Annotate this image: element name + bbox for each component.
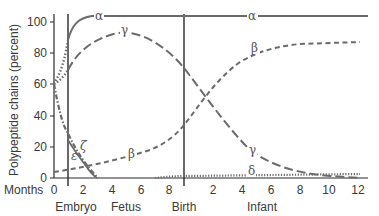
label-delta: δ <box>248 164 255 178</box>
period-labels: Embryo Fetus Birth Infant <box>55 200 277 214</box>
hemoglobin-chain-chart: Polypeptide chains (percent) 100 80 60 4… <box>0 0 379 216</box>
x-tick-label: 12 <box>351 183 365 197</box>
gamma-early-curve <box>54 70 68 84</box>
y-tick-label: 100 <box>27 15 47 29</box>
alpha-curve <box>68 16 368 40</box>
label-gamma-2: γ <box>249 143 256 157</box>
label-alpha-2: α <box>248 9 256 23</box>
y-axis-title: Polypeptide chains (percent) <box>7 24 21 176</box>
x-tick-label: 6 <box>268 183 275 197</box>
x-tick-label: 6 <box>138 183 145 197</box>
y-tick-label: 60 <box>34 77 48 91</box>
beta-curve <box>54 42 360 172</box>
label-beta-1: β <box>251 41 258 55</box>
x-tick-label: 2 <box>80 183 87 197</box>
label-beta-2: β <box>128 147 135 161</box>
y-tick-label: 40 <box>34 109 48 123</box>
label-gamma-1: γ <box>121 23 128 37</box>
y-axis: 100 80 60 40 20 0 <box>27 14 54 185</box>
alpha-early-curve <box>54 40 68 84</box>
x-tick-label: 4 <box>239 183 246 197</box>
x-tick-label: 8 <box>297 183 304 197</box>
label-epsilon: ε <box>71 149 77 163</box>
period-label-birth: Birth <box>172 200 197 214</box>
x-tick-label: 4 <box>109 183 116 197</box>
period-label-fetus: Fetus <box>111 200 141 214</box>
x-tick-label: 8 <box>166 183 173 197</box>
period-label-embryo: Embryo <box>55 200 97 214</box>
period-label-infant: Infant <box>247 200 278 214</box>
x-tick-label: 0 <box>51 183 58 197</box>
y-tick-label: 20 <box>34 140 48 154</box>
y-tick-label: 80 <box>34 46 48 60</box>
gamma-curve <box>68 33 360 178</box>
label-zeta: ζ <box>80 139 88 153</box>
x-tick-label: 2 <box>210 183 217 197</box>
label-alpha-1: α <box>95 9 103 23</box>
x-axis: Months 0 2 4 6 8 2 4 6 8 10 12 <box>4 178 368 197</box>
curve-labels: α α γ γ β β ζ ε δ <box>71 9 260 178</box>
x-tick-label: 10 <box>322 183 336 197</box>
zeta-curve <box>54 84 98 178</box>
x-axis-title: Months <box>4 183 43 197</box>
